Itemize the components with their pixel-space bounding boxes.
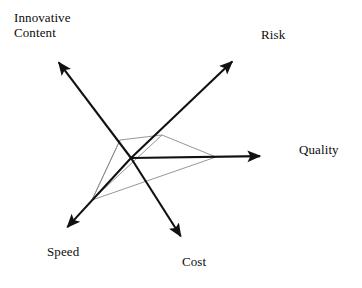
axis-label-innovative-content: Innovative Content — [14, 10, 71, 40]
polygon-spoke-innovative — [92, 140, 120, 200]
axis-label-speed: Speed — [47, 244, 79, 259]
axis-label-risk: Risk — [261, 27, 285, 42]
axis-label-quality: Quality — [299, 142, 339, 157]
axis-label-cost: Cost — [182, 254, 206, 269]
data-polygon-group — [92, 135, 216, 200]
axis-arrow-group — [59, 62, 260, 237]
axis-arrow-risk — [131, 62, 232, 159]
radar-diagram-canvas: Innovative Content Risk Quality Cost Spe… — [0, 0, 362, 288]
axis-arrow-speed — [67, 158, 131, 227]
data-polygon — [92, 135, 216, 200]
axis-arrow-quality — [131, 156, 260, 158]
axis-arrow-cost — [131, 158, 181, 236]
axis-arrow-innovative-content — [59, 62, 131, 158]
